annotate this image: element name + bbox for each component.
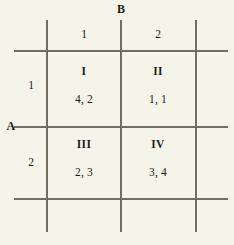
matrix-cell-iv-payoff: 3, 4 [121,167,195,179]
column-strategy-header-1: 1 [47,29,121,41]
payoff-matrix-figure: B A 1 2 1 2 I 4, 2 II 1, 1 III 2, 3 IV 3… [0,0,234,245]
column-player-label: B [113,3,129,15]
matrix-cell-iii: III 2, 3 [47,139,121,178]
grid-horizontal-line-top [14,50,228,52]
matrix-cell-iii-payoff: 2, 3 [47,167,121,179]
matrix-cell-i-name: I [47,66,121,78]
matrix-cell-iii-name: III [47,139,121,151]
matrix-cell-i: I 4, 2 [47,66,121,105]
row-strategy-header-1: 1 [16,80,46,92]
row-player-label: A [3,120,19,132]
matrix-cell-ii: II 1, 1 [121,66,195,105]
matrix-cell-i-payoff: 4, 2 [47,94,121,106]
matrix-cell-ii-payoff: 1, 1 [121,94,195,106]
grid-horizontal-line-middle [14,126,228,128]
row-strategy-header-2: 2 [16,157,46,169]
matrix-cell-iv: IV 3, 4 [121,139,195,178]
grid-horizontal-line-bottom [14,198,228,200]
column-strategy-header-2: 2 [121,29,195,41]
matrix-cell-ii-name: II [121,66,195,78]
matrix-cell-iv-name: IV [121,139,195,151]
